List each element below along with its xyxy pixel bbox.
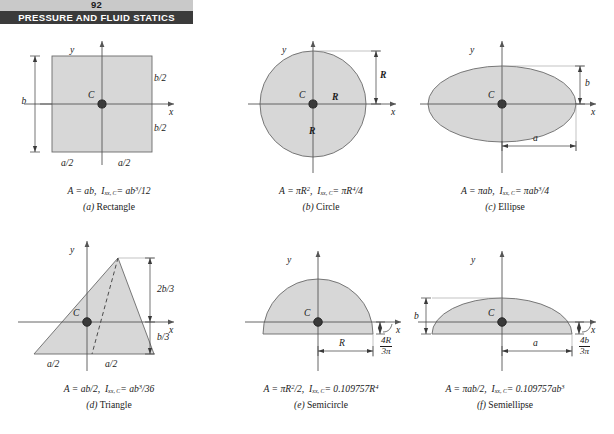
rectangle-diagram: [14, 33, 204, 183]
dimension-label-R-vertical: R: [380, 69, 386, 80]
formula-area-semiellipse: A = πab/2,: [445, 383, 486, 394]
formula-ellipse: A = πab, Ixx, C= πab3/4: [396, 185, 614, 196]
centroid-marker: [314, 318, 323, 327]
leader-curve-offset: [383, 324, 392, 332]
dimension-label-b: b: [16, 95, 32, 106]
x-axis-label: x: [169, 106, 173, 117]
dim-arrow-top: [374, 51, 378, 57]
circle-diagram: [228, 33, 413, 183]
dimension-label-a: a: [533, 132, 538, 143]
centroid-label: C: [88, 89, 94, 100]
formula-area-triangle: A = ab/2,: [64, 383, 100, 394]
area-tail: /2,: [294, 383, 304, 394]
y-axis-arrow: [500, 251, 505, 257]
formula-semiellipse: A = πab/2, Ixx, C= 0.109757ab3: [396, 383, 614, 394]
dim-arrow-2b3-bottom: [148, 316, 152, 322]
ellipse-diagram: [414, 33, 612, 183]
centroid-marker: [498, 318, 507, 327]
offset-numerator: 4R: [380, 336, 392, 347]
centroid-marker: [498, 100, 506, 108]
panel-semiellipse: y x C b a 4b 3π: [414, 233, 612, 381]
dimension-label-b-half-bottom: b/2: [154, 122, 166, 133]
semicircle-diagram: [233, 233, 418, 381]
inertia-rhs: = ab: [117, 185, 135, 196]
inertia-tail: /4: [542, 185, 549, 196]
caption-triangle: (d) Triangle: [0, 399, 218, 410]
area-lhs: A = πR: [264, 383, 292, 394]
inertia-subscript: xx, C: [320, 190, 332, 196]
dim-arrow-offset-top: [378, 322, 382, 328]
dim-arrow-b-bottom: [424, 328, 428, 334]
inertia-subscript: xx, C: [104, 190, 116, 196]
dim-arrow-left: [502, 144, 508, 148]
caption-tag-rectangle: (a): [83, 201, 94, 212]
caption-tag-semicircle: (e): [294, 399, 305, 410]
page-running-head: 92 PRESSURE AND FLUID STATICS: [0, 0, 193, 25]
x-axis-label: x: [591, 106, 595, 117]
inertia-tail: /36: [142, 383, 154, 394]
y-axis-label: y: [471, 254, 475, 265]
page-number: 92: [0, 0, 193, 10]
dimension-label-centroid-offset: 4R 3π: [380, 336, 392, 356]
caption-semiellipse: (f) Semiellipse: [396, 399, 614, 410]
dim-arrow-offset-bottom: [378, 328, 382, 334]
inertia-subscript: xx, C: [503, 190, 515, 196]
caption-name-ellipse: Ellipse: [498, 201, 525, 212]
panel-rectangle: b b/2 b/2 a/2 a/2 y x C: [14, 33, 204, 183]
centroid-marker: [98, 100, 106, 108]
caption-name-rectangle: Rectangle: [97, 201, 135, 212]
caption-name-triangle: Triangle: [100, 399, 132, 410]
dim-arrow-top: [578, 66, 582, 72]
y-axis-arrow: [500, 41, 505, 47]
y-axis-label: y: [287, 254, 291, 265]
y-axis-label: y: [282, 44, 286, 55]
inertia-subscript: xx, C: [108, 388, 120, 394]
inertia-subscript: xx, C: [495, 388, 507, 394]
inertia-rhs: = 0.109757R: [325, 383, 376, 394]
leader-curve-offset: [582, 324, 591, 332]
formula-triangle: A = ab/2, Ixx, C= ab3/36: [0, 383, 218, 394]
y-axis-arrow: [316, 251, 321, 257]
dimension-label-b: b: [414, 310, 419, 321]
offset-denominator: 3π: [380, 347, 392, 357]
inertia-rhs: = 0.109757ab: [507, 383, 561, 394]
panel-ellipse: y x C b a: [414, 33, 612, 183]
caption-name-circle: Circle: [316, 201, 339, 212]
area-lhs: A = πR: [279, 185, 307, 196]
centroid-marker: [309, 100, 317, 108]
dim-arrow-R-right: [367, 349, 373, 353]
dimension-label-2b3: 2b/3: [157, 283, 174, 294]
dimension-label-centroid-offset: 4b 3π: [579, 336, 590, 356]
offset-denominator: 3π: [579, 347, 590, 357]
dim-arrow-right: [570, 144, 576, 148]
formula-inertia-semiellipse: Ixx, C= 0.109757ab3: [489, 383, 565, 394]
y-axis-arrow: [311, 41, 316, 47]
centroid-marker: [83, 318, 92, 327]
x-axis-label: x: [591, 324, 595, 335]
inertia-exponent: 3: [561, 383, 564, 390]
inertia-rhs: = πR: [333, 185, 353, 196]
offset-fraction: 4R 3π: [380, 336, 392, 356]
dimension-label-R: R: [339, 337, 345, 348]
y-axis-label: y: [70, 44, 74, 55]
formula-inertia-ellipse: Ixx, C= πab3/4: [497, 185, 549, 196]
formula-inertia-semicircle: Ixx, C= 0.109757R4: [307, 383, 379, 394]
caption-tag-triangle: (d): [86, 399, 97, 410]
panel-semicircle: y x C R 4R 3π: [233, 233, 418, 381]
caption-rectangle: (a) Rectangle: [0, 201, 218, 212]
x-axis-label: x: [396, 324, 400, 335]
formula-area-rectangle: A = ab,: [67, 185, 96, 196]
caption-tag-circle: (b): [302, 201, 313, 212]
dim-arrow-top: [33, 56, 37, 62]
centroid-label: C: [488, 89, 494, 100]
formula-area-circle: A = πR2,: [279, 185, 312, 196]
x-axis-label: x: [169, 324, 173, 335]
centroid-label: C: [488, 307, 494, 318]
chapter-title: PRESSURE AND FLUID STATICS: [0, 11, 193, 24]
dimension-label-a-half-left: a/2: [61, 157, 73, 168]
centroid-label: C: [304, 307, 310, 318]
dimension-label-a: a: [533, 337, 538, 348]
dimension-label-b-half-top: b/2: [154, 72, 166, 83]
dimension-label-a-half-right: a/2: [118, 157, 130, 168]
x-axis-label: x: [391, 106, 395, 117]
